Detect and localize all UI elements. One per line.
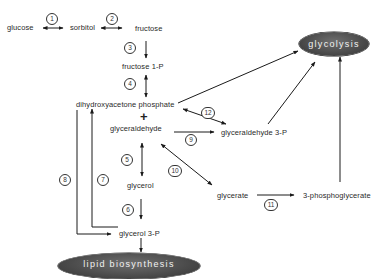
step-10-badge: 10 xyxy=(168,165,182,177)
step-12-badge: 12 xyxy=(201,107,215,119)
arrow-step-8 xyxy=(77,110,111,234)
lipid-biosynthesis-node: lipid biosynthesis xyxy=(58,253,200,279)
node-glyceraldehyde-3p: glyceraldehyde 3-P xyxy=(221,128,287,137)
step-11-badge: 11 xyxy=(264,199,278,211)
step-5-badge: 5 xyxy=(121,154,133,166)
node-sorbitol: sorbitol xyxy=(70,23,95,32)
step-4-badge: 4 xyxy=(124,78,136,90)
step-2-badge: 2 xyxy=(106,13,118,25)
step-7-badge: 7 xyxy=(97,174,109,186)
step-6-badge: 6 xyxy=(122,204,134,216)
plus-sign: + xyxy=(140,111,148,123)
glycolysis-label: glycolysis xyxy=(308,39,360,49)
step-9-badge: 9 xyxy=(185,134,197,146)
node-glycerol-3p: glycerol 3-P xyxy=(119,229,160,238)
step-3-badge: 3 xyxy=(124,42,136,54)
node-3-phosphoglycerate: 3-phosphoglycerate xyxy=(303,191,371,200)
arrow-g3p-to-glycolysis xyxy=(268,62,315,124)
lipid-biosynthesis-label: lipid biosynthesis xyxy=(83,259,174,269)
arrow-step-10 xyxy=(161,144,212,185)
node-glyceraldehyde: glyceraldehyde xyxy=(110,124,162,133)
node-glycerate: glycerate xyxy=(217,191,248,200)
arrow-dhap-to-glycolysis xyxy=(178,51,298,103)
node-glycerol: glycerol xyxy=(127,181,154,190)
glycolysis-node: glycolysis xyxy=(299,32,369,56)
step-8-badge: 8 xyxy=(59,174,71,186)
node-fructose-1p: fructose 1-P xyxy=(122,62,164,71)
node-fructose: fructose xyxy=(135,24,162,33)
node-dhap: dihydroxyacetone phosphate xyxy=(76,100,175,109)
node-glucose: glucose xyxy=(7,23,34,32)
step-1-badge: 1 xyxy=(46,13,58,25)
